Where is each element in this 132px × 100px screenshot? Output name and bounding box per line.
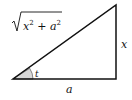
hypotenuse-label: x2 + a2	[23, 19, 61, 33]
angle-label: t	[35, 69, 39, 79]
opposite-label: x	[121, 38, 128, 51]
right-triangle-diagram: x2 + a2 x a t	[0, 0, 132, 100]
adjacent-label: a	[66, 83, 73, 96]
triangle	[13, 5, 116, 79]
